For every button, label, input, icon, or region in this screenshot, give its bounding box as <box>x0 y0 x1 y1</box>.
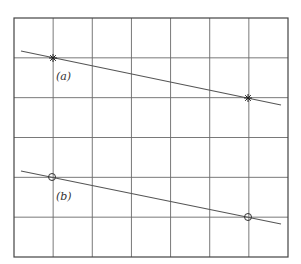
line-b: (b) <box>21 171 281 224</box>
line-b-label: (b) <box>56 190 72 203</box>
line-a: (a) <box>21 51 281 105</box>
diagram-canvas: (a) (b) <box>0 0 301 264</box>
star-marker-icon <box>49 54 57 62</box>
grid <box>14 18 288 257</box>
star-marker-icon <box>244 94 252 102</box>
line-a-label: (a) <box>56 70 71 83</box>
